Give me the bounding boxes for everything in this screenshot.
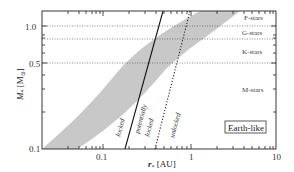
label-potentially-locked: locked (143, 117, 156, 137)
label-f-stars: F-stars (244, 14, 263, 22)
y-tick-label-0.1: 0.1 (29, 144, 40, 154)
x-tick-label-0.1: 0.1 (96, 152, 107, 162)
label-unlocked: unlocked (168, 112, 182, 139)
chart-canvas: 0.1 1 10 1.0 0.5 0.1 r* [AU] M* [M⊙] F-s… (0, 0, 294, 172)
y-tick-label-1.0: 1.0 (25, 22, 37, 32)
x-axis-label: r* [AU] (148, 159, 176, 170)
x-tick-label-1: 1 (189, 152, 194, 162)
y-tick-label-0.5: 0.5 (29, 59, 41, 69)
x-tick-label-10: 10 (272, 152, 282, 162)
earth-like-label: Earth-like (228, 123, 264, 133)
label-g-stars: G-stars (242, 29, 262, 37)
label-m-stars: M-stars (242, 86, 264, 94)
y-axis-label: M* [M⊙] (15, 68, 26, 101)
label-k-stars: K-stars (242, 48, 262, 56)
